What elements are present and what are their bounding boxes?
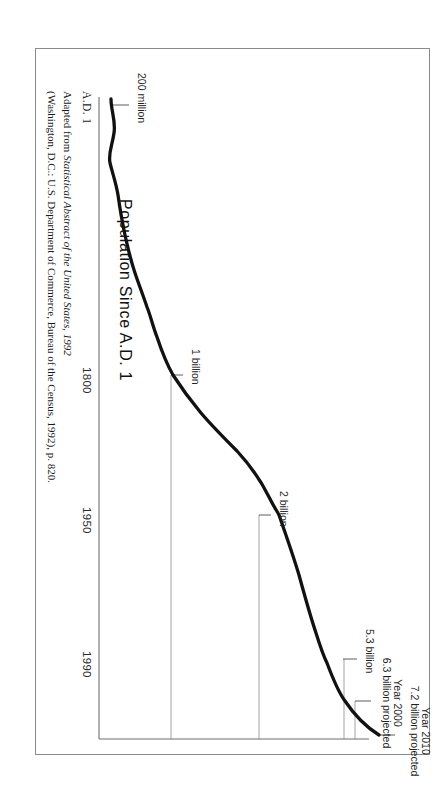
chart-title: Population Since A.D. 1	[116, 199, 133, 381]
annotation-year-2010: Year 2010	[420, 683, 431, 779]
x-tick-label-1800: 1800	[81, 367, 93, 394]
annotation-200-million: 200 million	[136, 73, 147, 123]
figure-page: 1800 1950 1990 A.D. 1 200 million 1 bill…	[0, 0, 447, 811]
x-tick-label-1990: 1990	[81, 651, 93, 678]
annotation-year-2000: Year 2000	[392, 657, 403, 749]
annotation-53-billion: 5.3 billion	[364, 629, 375, 673]
source-credit-title: Statistical Abstract of the United State…	[62, 155, 74, 356]
rotated-figure-wrapper: 1800 1950 1990 A.D. 1 200 million 1 bill…	[36, 49, 429, 756]
source-credit-prefix: Adapted from	[62, 91, 74, 155]
figure-canvas: 1800 1950 1990 A.D. 1 200 million 1 bill…	[36, 49, 429, 756]
source-credit-line-1: Adapted from Statistical Abstract of the…	[61, 91, 73, 356]
source-credit-line-2: (Washington, D.C.: U.S. Department of Co…	[45, 91, 57, 483]
annotation-63-billion-projected: 6.3 billion projected	[381, 657, 392, 749]
annotation-2-billion: 2 billion	[278, 491, 289, 527]
annotation-72-billion-projected: 7.2 billion projected	[409, 683, 420, 779]
x-tick-label-origin: A.D. 1	[81, 91, 93, 124]
population-curve	[109, 99, 379, 735]
x-tick-label-1950: 1950	[81, 507, 93, 534]
annotation-1-billion: 1 billion	[190, 349, 201, 385]
